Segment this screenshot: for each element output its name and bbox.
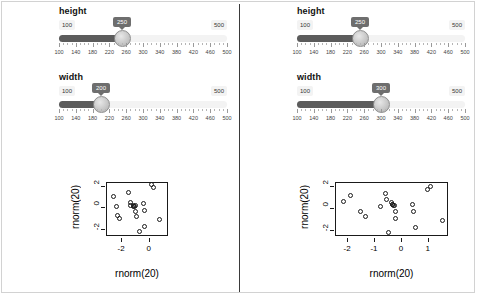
slider-tick-mark-minor: [156, 43, 157, 45]
slider-tick-mark-minor: [436, 43, 437, 45]
slider-tick-mark-minor: [118, 43, 119, 45]
slider-tick-mark-minor: [67, 43, 68, 45]
slider-tick-mark-minor: [139, 43, 140, 45]
slider-tick-label: 100: [292, 115, 301, 121]
data-point: [386, 230, 391, 235]
data-point: [428, 184, 433, 189]
slider-tick-mark: [415, 109, 416, 113]
slider-tick-mark: [431, 43, 432, 47]
data-point: [393, 209, 398, 214]
y-tick-label: -2: [92, 223, 101, 230]
slider-tick-mark: [297, 109, 298, 113]
slider-tick-mark-minor: [301, 43, 302, 45]
slider-tick-mark: [364, 43, 365, 47]
slider-tick-mark-minor: [84, 109, 85, 111]
slider-tick-mark: [160, 43, 161, 47]
slider-tick-mark-minor: [147, 109, 148, 111]
slider-tick-label: 380: [172, 115, 181, 121]
slider-tick-mark-minor: [185, 43, 186, 45]
slider-tick-mark-minor: [214, 109, 215, 111]
slider-height[interactable]: 1005002501001401802202603003403804204605…: [59, 12, 227, 58]
slider-max-label: 500: [211, 86, 227, 96]
slider-tick-mark: [126, 43, 127, 47]
slider-tick-mark-minor: [101, 43, 102, 45]
slider-tick-grid: 100140180220260300340380420460500: [297, 109, 465, 124]
slider-value-bubble: 200: [92, 83, 110, 93]
slider-tick-label: 500: [460, 49, 469, 55]
x-axis-tick: [374, 238, 375, 242]
slider-tick-label: 380: [172, 49, 181, 55]
slider-tick-mark-minor: [339, 109, 340, 111]
slider-filled-track: [59, 35, 122, 42]
slider-tick-mark-minor: [326, 43, 327, 45]
slider-tick-mark-minor: [440, 43, 441, 45]
slider-tick-mark-minor: [402, 43, 403, 45]
data-point: [413, 225, 418, 230]
slider-height[interactable]: 1005002501001401802202603003403804204605…: [297, 12, 465, 58]
x-axis-tick: [428, 238, 429, 242]
slider-tick-mark-minor: [105, 43, 106, 45]
x-tick-label: 1: [426, 244, 430, 253]
slider-tick-mark-minor: [461, 43, 462, 45]
slider-tick-label: 260: [360, 49, 369, 55]
slider-tick-mark-minor: [444, 43, 445, 45]
y-tick-label: 0: [321, 202, 330, 206]
slider-tick-mark-minor: [168, 109, 169, 111]
slider-tick-mark-minor: [135, 109, 136, 111]
x-axis-title: rnorm(20): [115, 268, 159, 279]
slider-tick-mark-minor: [322, 43, 323, 45]
slider-tick-mark-minor: [352, 43, 353, 45]
slider-tick-mark-minor: [427, 43, 428, 45]
slider-tick-mark-minor: [452, 109, 453, 111]
slider-tick-mark-minor: [214, 43, 215, 45]
x-tick-label: -2: [344, 244, 351, 253]
slider-tick-mark: [398, 43, 399, 47]
slider-tick-label: 220: [105, 115, 114, 121]
x-tick-label: -2: [118, 244, 125, 253]
slider-tick-grid: 100140180220260300340380420460500: [59, 109, 227, 124]
slider-tick-mark-minor: [406, 43, 407, 45]
slider-min-label: 100: [297, 20, 313, 30]
slider-tick-label: 220: [343, 115, 352, 121]
slider-tick-mark-minor: [360, 109, 361, 111]
slider-tick-label: 380: [410, 115, 419, 121]
slider-tick-label: 260: [122, 115, 131, 121]
slider-tick-label: 220: [105, 49, 114, 55]
slider-tick-mark-minor: [356, 43, 357, 45]
y-axis-title: rnorm(20): [70, 185, 81, 229]
slider-tick-mark-minor: [318, 109, 319, 111]
plot-panel-box: [335, 182, 448, 236]
slider-tick-mark-minor: [402, 109, 403, 111]
slider-tick-mark: [364, 109, 365, 113]
slider-tick-mark-minor: [343, 109, 344, 111]
slider-tick-grid: 100140180220260300340380420460500: [297, 43, 465, 58]
slider-tick-label: 180: [88, 49, 97, 55]
slider-tick-label: 140: [71, 115, 80, 121]
slider-tick-label: 300: [138, 49, 147, 55]
slider-tick-mark-minor: [457, 109, 458, 111]
slider-tick-mark-minor: [352, 109, 353, 111]
slider-tick-mark-minor: [223, 43, 224, 45]
y-axis-tick: [330, 230, 334, 231]
scatter-plot: -20-202rnorm(20)rnorm(20): [42, 152, 188, 292]
slider-tick-mark-minor: [368, 43, 369, 45]
slider-width[interactable]: 1005002001001401802202603003403804204605…: [59, 78, 227, 124]
slider-filled-track: [297, 35, 360, 42]
slider-tick-label: 500: [222, 115, 231, 121]
slider-tick-mark: [193, 43, 194, 47]
data-point: [151, 185, 156, 190]
slider-tick-mark-minor: [335, 109, 336, 111]
slider-tick-label: 180: [326, 115, 335, 121]
slider-min-label: 100: [59, 86, 75, 96]
slider-tick-mark-minor: [130, 43, 131, 45]
slider-tick-mark-minor: [97, 43, 98, 45]
slider-tick-mark: [109, 43, 110, 47]
slider-tick-mark-minor: [339, 43, 340, 45]
x-axis-title: rnorm(20): [370, 268, 414, 279]
slider-tick-mark-minor: [394, 43, 395, 45]
slider-tick-mark: [210, 109, 211, 113]
slider-width[interactable]: 1005003001001401802202603003403804204605…: [297, 78, 465, 124]
slider-tick-mark: [93, 43, 94, 47]
slider-tick-label: 300: [138, 115, 147, 121]
slider-tick-mark-minor: [67, 109, 68, 111]
